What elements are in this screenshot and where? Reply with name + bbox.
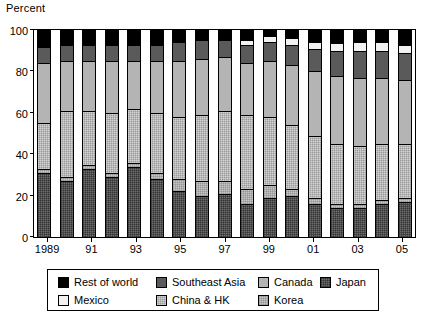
bar-segment <box>330 51 344 76</box>
legend-item[interactable]: Japan <box>320 276 366 289</box>
bar-segment <box>330 76 344 144</box>
legend-item-label: Southeast Asia <box>172 276 245 289</box>
y-tick-mark <box>30 112 34 113</box>
bar-segment <box>172 61 186 117</box>
y-tick-mark <box>30 153 34 154</box>
bar-1996[interactable] <box>195 30 209 237</box>
bar-segment <box>172 30 186 42</box>
bar-segment <box>353 208 367 237</box>
bar-segment <box>195 59 209 115</box>
bar-segment <box>218 30 232 40</box>
bar-segment <box>195 30 209 40</box>
bar-segment <box>82 30 96 44</box>
bar-segment <box>263 198 277 237</box>
bar-segment <box>263 185 277 197</box>
bar-segment <box>105 61 119 113</box>
y-axis-tick: 20 <box>0 195 34 196</box>
bar-segment <box>308 204 322 237</box>
bar-1997[interactable] <box>218 30 232 237</box>
bar-segment <box>105 30 119 44</box>
bar-segment <box>195 196 209 237</box>
bar-segment <box>82 111 96 165</box>
bar-segment <box>37 123 51 169</box>
bar-segment <box>195 40 209 59</box>
bar-segment <box>353 78 367 146</box>
bar-2002[interactable] <box>330 30 344 237</box>
legend-item[interactable]: Mexico <box>58 294 109 307</box>
bar-segment <box>60 181 74 237</box>
y-tick-label: 60 <box>16 108 28 120</box>
bar-segment <box>60 30 74 44</box>
bar-2004[interactable] <box>375 30 389 237</box>
bar-segment <box>82 45 96 62</box>
y-tick-mark <box>30 29 34 30</box>
legend-item[interactable]: Canada <box>258 276 313 289</box>
y-axis-tick: 60 <box>0 112 34 113</box>
bar-2003[interactable] <box>353 30 367 237</box>
bar-1998[interactable] <box>240 30 254 237</box>
x-tick-label: 99 <box>263 242 275 256</box>
bar-2005[interactable] <box>398 30 412 237</box>
bar-1999[interactable] <box>263 30 277 237</box>
bar-segment <box>60 45 74 62</box>
bar-segment <box>398 30 412 44</box>
bar-1993[interactable] <box>127 30 141 237</box>
y-tick-mark <box>30 70 34 71</box>
bar-segment <box>398 202 412 237</box>
bar-segment <box>127 109 141 163</box>
bar-segment <box>127 61 141 109</box>
legend-item[interactable]: Korea <box>258 294 303 307</box>
legend-item[interactable]: Southeast Asia <box>156 276 245 289</box>
y-axis-tick: 100 <box>0 29 34 30</box>
bar-segment <box>218 181 232 193</box>
bar-segment <box>60 111 74 177</box>
y-axis-title: Percent <box>6 2 45 15</box>
bar-segment <box>375 42 389 50</box>
bar-segment <box>308 49 322 72</box>
bar-segment <box>105 45 119 62</box>
bar-segment <box>127 167 141 237</box>
bar-1992[interactable] <box>105 30 119 237</box>
bar-segment <box>82 169 96 237</box>
bar-segment <box>398 45 412 53</box>
bar-segment <box>375 30 389 42</box>
x-tick-label: 03 <box>351 242 363 256</box>
bar-1990[interactable] <box>60 30 74 237</box>
bar-segment <box>37 63 51 123</box>
legend-row-bottom: MexicoChina & HKKorea <box>48 291 378 309</box>
y-axis-tick: 40 <box>0 153 34 154</box>
bar-segment <box>105 113 119 173</box>
bar-segment <box>263 42 277 61</box>
plot-area: 020406080100 <box>33 29 416 238</box>
bar-2000[interactable] <box>285 30 299 237</box>
bar-segment <box>150 61 164 113</box>
legend-item[interactable]: China & HK <box>156 294 229 307</box>
bar-segment <box>398 53 412 80</box>
bar-segment <box>353 42 367 50</box>
bar-segment <box>195 115 209 181</box>
bar-2001[interactable] <box>308 30 322 237</box>
bar-segment <box>285 125 299 189</box>
bar-segment <box>308 71 322 135</box>
bars-container <box>34 30 415 237</box>
x-tick-label: 1989 <box>35 242 59 256</box>
legend-item-label: Mexico <box>74 294 109 307</box>
legend-swatch-icon <box>258 277 269 288</box>
bar-segment <box>172 191 186 237</box>
bar-segment <box>218 57 232 111</box>
bar-1991[interactable] <box>82 30 96 237</box>
bar-1994[interactable] <box>150 30 164 237</box>
x-tick-label: 91 <box>85 242 97 256</box>
legend-item[interactable]: Rest of world <box>58 276 138 289</box>
bar-segment <box>285 45 299 66</box>
bar-segment <box>240 204 254 237</box>
legend-row-top: Rest of worldSoutheast AsiaCanadaJapan <box>48 273 378 291</box>
legend-item-label: Canada <box>274 276 313 289</box>
bar-segment <box>330 144 344 204</box>
bar-1989[interactable] <box>37 30 51 237</box>
bar-segment <box>353 51 367 78</box>
y-axis-tick: 80 <box>0 70 34 71</box>
bar-segment <box>353 146 367 204</box>
y-tick-label: 0 <box>22 232 28 244</box>
bar-1995[interactable] <box>172 30 186 237</box>
